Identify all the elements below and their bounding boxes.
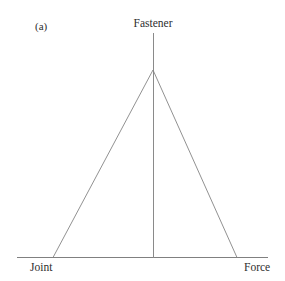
label-fastener: Fastener — [134, 17, 173, 29]
load-triangle-diagram — [0, 0, 285, 281]
panel-label: (a) — [35, 20, 47, 32]
figure-panel: (a) Fastener Joint Force — [0, 0, 285, 281]
label-joint: Joint — [30, 261, 52, 273]
right-slope-line — [153, 70, 237, 258]
left-slope-line — [53, 70, 153, 258]
label-force: Force — [244, 261, 270, 273]
